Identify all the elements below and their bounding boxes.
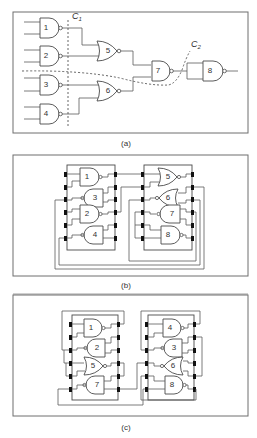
gate-6-label-c: 6: [171, 361, 176, 370]
gate-8-nand: 8: [203, 61, 226, 81]
gate-4-label-c: 4: [168, 323, 173, 332]
panel-b: 1 3 2 4 5 6: [13, 155, 248, 290]
gate-2-label: 2: [44, 51, 49, 60]
gate-1-label-b: 1: [85, 172, 90, 181]
gate-3-label-b: 3: [93, 193, 98, 202]
panel-c-frame: [13, 295, 248, 416]
gate-3-label: 3: [44, 80, 49, 89]
panel-b-caption: (b): [121, 281, 131, 290]
gate-8-label-b: 8: [166, 230, 171, 239]
chip-c1: 1 2 5 7: [69, 315, 120, 400]
panel-a: 1 2 3 4: [13, 11, 248, 148]
gate-6-nor: 6: [97, 81, 121, 101]
gate-1-label-c: 1: [89, 323, 94, 332]
panel-c: 1 2 5 7 4 3: [13, 295, 248, 432]
gate-1-nand: 1: [40, 18, 62, 38]
circuit-partition-figure: 1 2 3 4: [0, 0, 257, 438]
gate-2-label-c: 2: [95, 343, 100, 352]
panel-c-caption: (c): [121, 423, 131, 432]
gate-5-label: 5: [106, 46, 111, 55]
panel-b-frame: [13, 155, 248, 276]
gate-6-label: 6: [106, 86, 111, 95]
chip-b1: 1 3 2 4: [64, 165, 117, 250]
chip-c2: 4 3 6 8: [145, 315, 196, 400]
gate-4-nand: 4: [40, 104, 62, 124]
gate-4-label: 4: [44, 109, 49, 118]
gate-5-label-b: 5: [166, 172, 171, 181]
gate-3-label-c: 3: [172, 343, 177, 352]
gate-3-nand: 3: [40, 75, 62, 95]
gate-2-nand: 2: [40, 46, 62, 66]
gate-2-label-b: 2: [85, 209, 90, 218]
gate-6-label-b: 6: [166, 193, 171, 202]
gate-8-label-c: 8: [170, 380, 175, 389]
gate-8-label: 8: [208, 66, 213, 75]
inter-chip-wires-b: [55, 174, 204, 269]
gate-4-label-b: 4: [93, 230, 98, 239]
gate-7-nand: 7: [152, 61, 173, 81]
chip-b2: 5 6 7 8: [141, 165, 194, 250]
gate-5-nor: 5: [97, 41, 121, 61]
cut-c2-label: C2: [191, 39, 202, 50]
gate-1-label: 1: [44, 23, 49, 32]
gate-7-label: 7: [156, 66, 161, 75]
panel-a-caption: (a): [121, 139, 131, 148]
cut-c1-label: C1: [72, 11, 82, 22]
gate-7-label-c: 7: [95, 380, 100, 389]
gate-7-label-b: 7: [170, 209, 175, 218]
gate-5-label-c: 5: [91, 361, 96, 370]
